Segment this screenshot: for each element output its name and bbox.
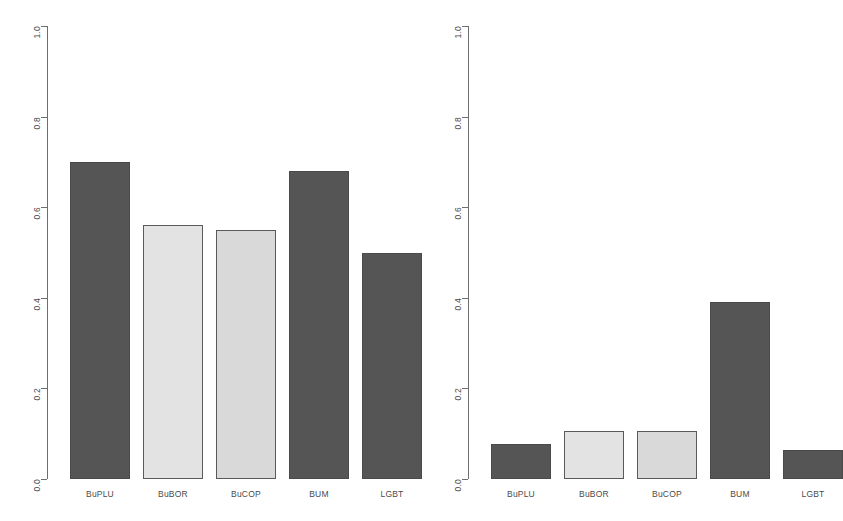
bar-right-buplu xyxy=(491,444,551,479)
bar-right-bubor xyxy=(564,431,624,479)
x-axis-label-left-bubor: BuBOR xyxy=(143,489,203,499)
bar-left-bum xyxy=(289,171,349,479)
bar-right-bucop xyxy=(637,431,697,479)
x-axis-label-right-bucop: BuCOP xyxy=(637,489,697,499)
plot-area-left xyxy=(48,26,400,479)
bar-left-bubor xyxy=(143,225,203,479)
bar-right-lgbt xyxy=(783,450,843,479)
x-axis-label-right-bubor: BuBOR xyxy=(564,489,624,499)
bar-left-buplu xyxy=(70,162,130,479)
chart-panel-right: 0.00.20.40.60.81.0 BuPLUBuBORBuCOPBUMLGB… xyxy=(421,0,841,521)
chart-panel-left: 0.00.20.40.60.81.0 BuPLUBuBORBuCOPBUMLGB… xyxy=(0,0,420,521)
x-axis-label-left-bum: BUM xyxy=(289,489,349,499)
plot-area-right xyxy=(469,26,821,479)
x-axis-label-left-bucop: BuCOP xyxy=(216,489,276,499)
bar-left-bucop xyxy=(216,230,276,479)
x-axis-label-left-buplu: BuPLU xyxy=(70,489,130,499)
x-axis-label-left-lgbt: LGBT xyxy=(362,489,422,499)
x-axis-label-right-lgbt: LGBT xyxy=(783,489,843,499)
x-axis-label-right-buplu: BuPLU xyxy=(491,489,551,499)
bar-right-bum xyxy=(710,302,770,479)
x-axis-label-right-bum: BUM xyxy=(710,489,770,499)
bar-left-lgbt xyxy=(362,253,422,480)
